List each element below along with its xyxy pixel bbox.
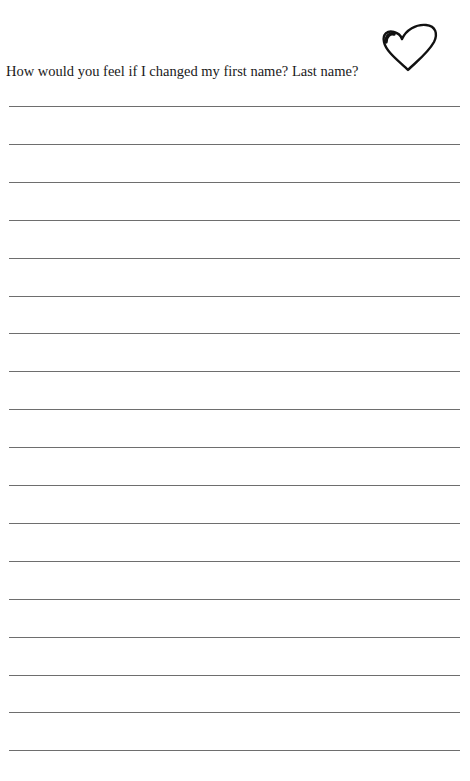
journal-page: How would you feel if I changed my first…	[0, 0, 470, 781]
writing-line	[9, 144, 460, 145]
writing-line	[9, 371, 460, 372]
writing-line	[9, 220, 460, 221]
writing-line	[9, 712, 460, 713]
writing-line	[9, 599, 460, 600]
writing-line	[9, 333, 460, 334]
writing-line	[9, 561, 460, 562]
writing-line	[9, 258, 460, 259]
heart-icon	[380, 22, 440, 74]
writing-line	[9, 750, 460, 751]
writing-line	[9, 182, 460, 183]
writing-line	[9, 296, 460, 297]
writing-line	[9, 523, 460, 524]
writing-line	[9, 485, 460, 486]
writing-line	[9, 675, 460, 676]
writing-line	[9, 447, 460, 448]
writing-line	[9, 637, 460, 638]
writing-line	[9, 409, 460, 410]
question-prompt: How would you feel if I changed my first…	[6, 62, 358, 80]
writing-line	[9, 106, 460, 107]
